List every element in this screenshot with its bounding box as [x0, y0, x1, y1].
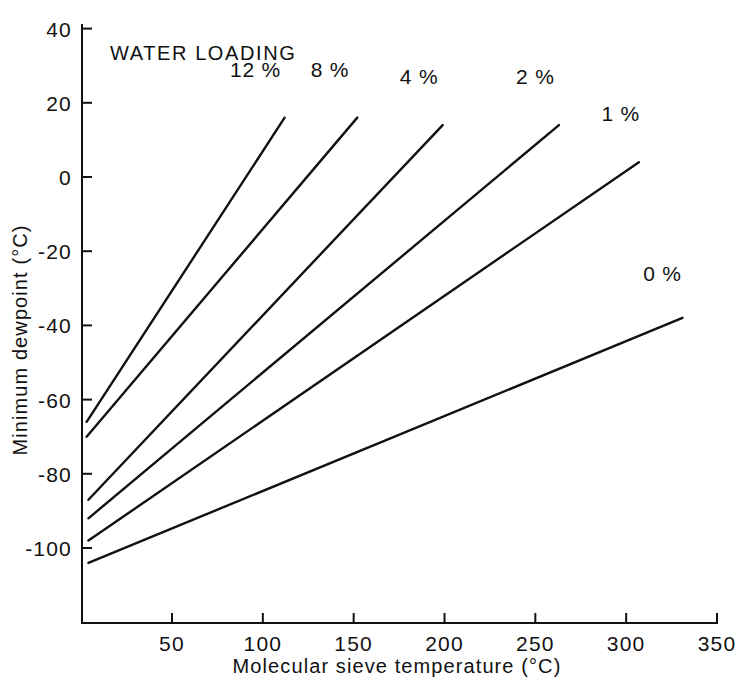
- data-series-lines: [87, 118, 683, 563]
- x-tick-label: 250: [516, 632, 555, 655]
- series-label: 0 %: [643, 262, 682, 285]
- y-tick-label: -60: [38, 389, 72, 412]
- series-line-4pct: [88, 125, 442, 500]
- y-tick-label: 40: [46, 18, 72, 41]
- chart-container: 40200-20-40-60-80-100 501001502002503003…: [0, 0, 754, 688]
- x-tick-label: 50: [159, 632, 185, 655]
- y-tick-label: -20: [38, 240, 72, 263]
- series-line-1pct: [88, 162, 638, 540]
- x-axis-tick-labels: 50100150200250300350: [159, 632, 736, 655]
- series-inline-labels: 12 %8 %4 %2 %1 %0 %: [230, 58, 682, 285]
- y-axis-tick-labels: 40200-20-40-60-80-100: [25, 18, 72, 560]
- series-label: 8 %: [311, 58, 350, 81]
- y-tick-label: 0: [59, 166, 72, 189]
- x-axis-title: Molecular sieve temperature (°C): [233, 655, 562, 677]
- water-loading-annotation: WATER LOADING: [110, 42, 296, 64]
- series-line-12pct: [87, 118, 285, 422]
- y-axis-title: Minimum dewpoint (°C): [9, 224, 31, 455]
- x-tick-label: 150: [334, 632, 373, 655]
- y-tick-label: 20: [46, 92, 72, 115]
- series-line-8pct: [87, 118, 358, 437]
- x-tick-label: 200: [425, 632, 464, 655]
- x-tick-label: 100: [244, 632, 283, 655]
- y-tick-label: -80: [38, 463, 72, 486]
- series-label: 2 %: [516, 65, 555, 88]
- y-tick-label: -100: [25, 537, 72, 560]
- series-label: 1 %: [601, 102, 640, 125]
- series-line-2pct: [88, 125, 559, 518]
- y-tick-label: -40: [38, 314, 72, 337]
- series-label: 4 %: [400, 65, 439, 88]
- series-line-0pct: [88, 318, 682, 563]
- water-loading-line-chart: 40200-20-40-60-80-100 501001502002503003…: [0, 0, 754, 688]
- x-tick-label: 350: [698, 632, 737, 655]
- x-tick-label: 300: [607, 632, 646, 655]
